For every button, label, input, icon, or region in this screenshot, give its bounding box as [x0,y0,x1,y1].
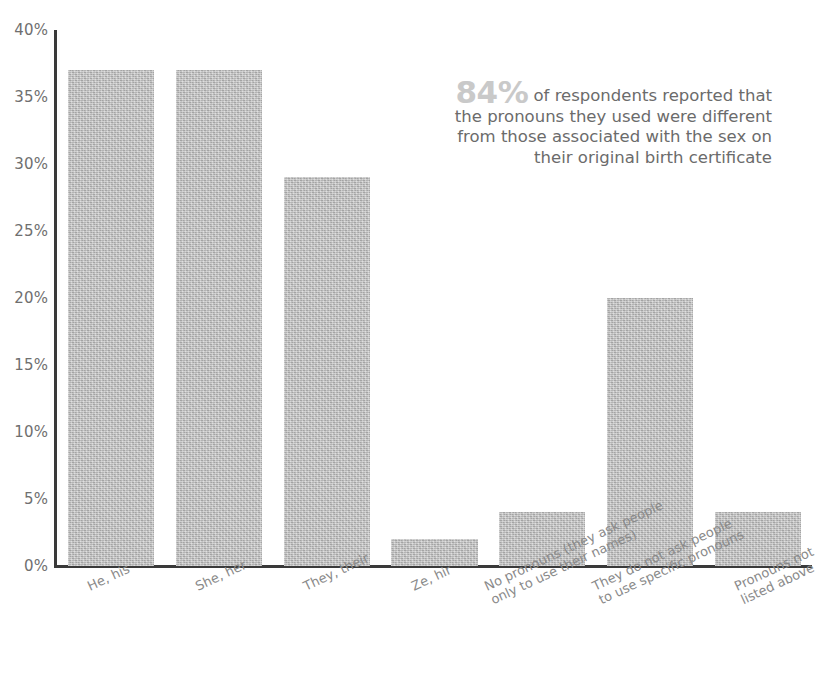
bar [176,70,262,566]
x-axis: He, hisShe, herThey, theirZe, hirNo pron… [0,566,818,698]
y-axis-tick-label: 25% [14,222,48,240]
y-axis-tick-label: 15% [14,356,48,374]
y-axis-tick-label: 35% [14,88,48,106]
annotation-stat: 84% [456,74,529,110]
bar [284,177,370,566]
annotation-callout: 84% of respondents reported that the pro… [432,78,772,168]
y-axis-tick-label: 10% [14,423,48,441]
y-axis-tick-label: 30% [14,155,48,173]
x-axis-tick-label: Ze, hir [409,562,454,594]
y-axis-tick-label: 20% [14,289,48,307]
y-axis-tick-label: 40% [14,21,48,39]
bar [68,70,154,566]
y-axis-tick-label: 5% [24,490,48,508]
bar-chart: 0%5%10%15%20%25%30%35%40% He, hisShe, he… [0,0,818,698]
x-axis-tick-label: He, his [85,561,132,593]
bar [391,539,477,566]
